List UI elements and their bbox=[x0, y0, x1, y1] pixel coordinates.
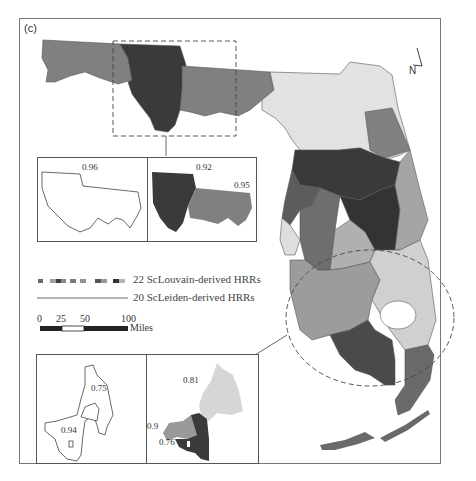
inset-value-3: 0.76 bbox=[159, 437, 175, 447]
inset-south-louvain: 0.81 0.9 0.76 bbox=[146, 354, 259, 464]
inset-value-2: 0.9 bbox=[147, 421, 158, 431]
scale-unit: Miles bbox=[130, 322, 153, 333]
inset-south-leiden: 0.75 0.94 bbox=[36, 354, 147, 464]
inset-value-1: 0.81 bbox=[183, 375, 199, 385]
inset-value-2: 0.94 bbox=[61, 425, 77, 435]
inset-value-1: 0.75 bbox=[91, 383, 107, 393]
